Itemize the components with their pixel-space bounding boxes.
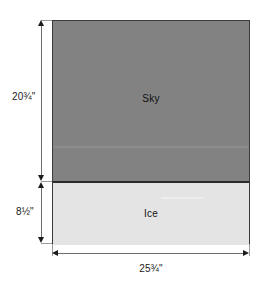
dimension-line-width xyxy=(54,253,247,254)
diagram-canvas: Sky Ice 20¾" 8½" 25¾" xyxy=(0,0,264,283)
arrowhead-width-left-icon xyxy=(52,250,58,256)
region-label-sky: Sky xyxy=(53,93,249,104)
dimension-label-sky-height: 20¾" xyxy=(12,91,35,102)
witness-line-right xyxy=(249,243,250,256)
region-sky: Sky xyxy=(53,21,249,183)
dimension-line-sky-height xyxy=(41,22,42,179)
figure-rectangle: Sky Ice xyxy=(52,20,250,244)
ice-seam-line xyxy=(161,197,204,199)
sky-seam-line xyxy=(53,146,249,148)
arrowhead-ice-bottom-icon xyxy=(38,237,44,243)
arrowhead-width-right-icon xyxy=(243,250,249,256)
dimension-label-ice-height: 8½" xyxy=(16,206,34,217)
arrowhead-sky-bottom-icon xyxy=(38,175,44,181)
arrowhead-sky-top-icon xyxy=(38,20,44,26)
region-label-ice: Ice xyxy=(53,208,249,219)
arrowhead-ice-top-icon xyxy=(38,182,44,188)
dimension-line-ice-height xyxy=(41,184,42,241)
region-ice: Ice xyxy=(53,183,249,245)
dimension-label-width: 25¾" xyxy=(52,263,250,274)
